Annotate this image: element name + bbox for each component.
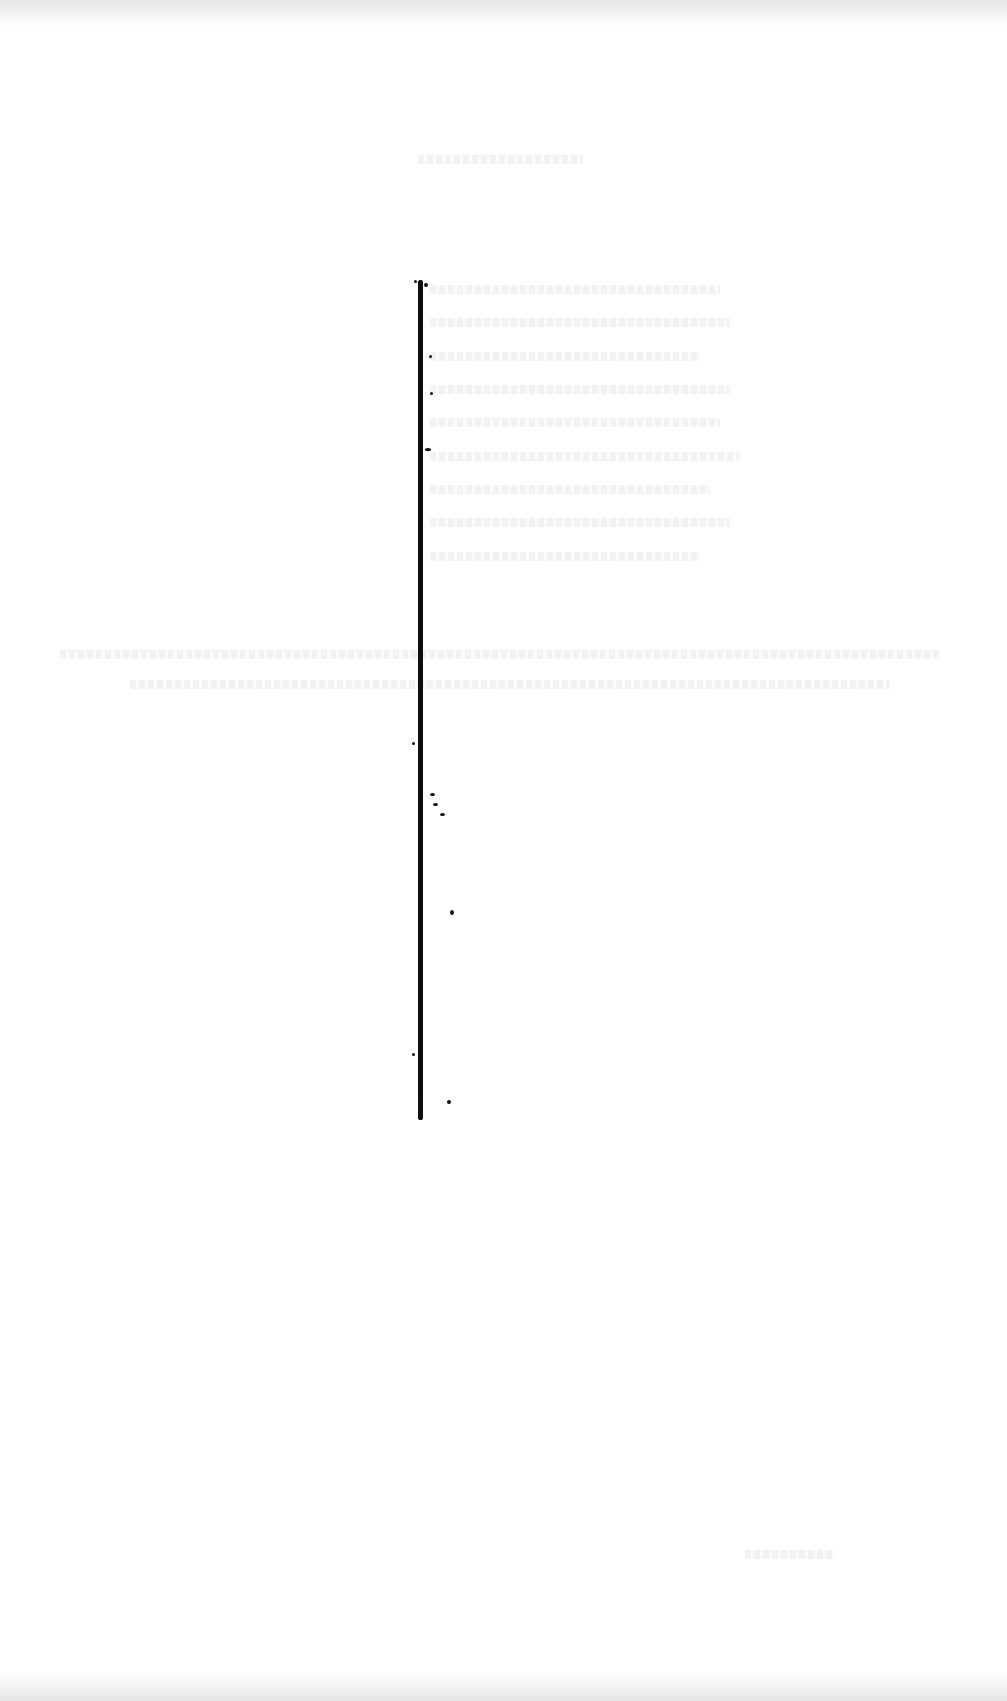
- ghost-text-line: [430, 418, 720, 427]
- ghost-text-line: [430, 518, 730, 527]
- ghost-text-line: [60, 650, 940, 659]
- scan-speck: [412, 742, 415, 745]
- scan-speck: [430, 793, 435, 796]
- scan-speck: [430, 392, 433, 395]
- ghost-text-line: [418, 155, 583, 164]
- scan-speck: [412, 1053, 415, 1056]
- scan-speck: [450, 910, 454, 915]
- vertical-rule: [418, 280, 423, 1120]
- ghost-text-line: [745, 1550, 835, 1559]
- scan-speck: [424, 283, 428, 287]
- ghost-text-line: [430, 552, 700, 561]
- ghost-text-line: [430, 352, 700, 361]
- scan-edge-bottom: [0, 1671, 1007, 1701]
- ghost-text-line: [430, 485, 710, 494]
- ghost-text-line: [430, 385, 730, 394]
- ghost-text-line: [430, 285, 720, 294]
- ghost-text-line: [430, 318, 730, 327]
- scan-edge-top: [0, 0, 1007, 26]
- scan-speck: [447, 1100, 451, 1104]
- scan-speck: [440, 813, 445, 816]
- ghost-text-line: [130, 680, 890, 689]
- scan-speck: [414, 280, 417, 283]
- vertical-rule-tail: [419, 1095, 422, 1120]
- scan-speck: [433, 803, 438, 806]
- scan-speck: [429, 355, 432, 358]
- scan-speck: [425, 448, 431, 451]
- ghost-text-line: [430, 452, 740, 461]
